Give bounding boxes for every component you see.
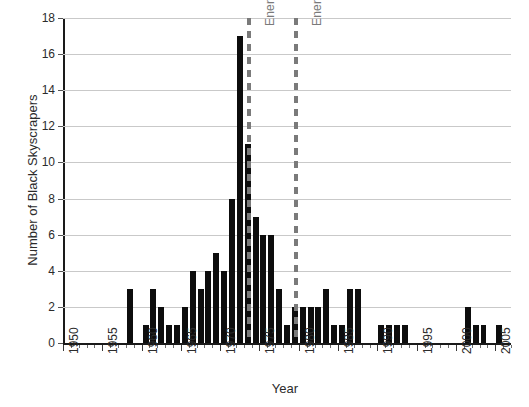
x-tick-label: 2005 [499, 327, 513, 354]
x-minor-tick [244, 345, 245, 348]
x-major-tick [456, 345, 457, 351]
x-major-tick [142, 345, 143, 351]
gridline [63, 162, 511, 163]
y-tick-label: 14 [42, 83, 55, 97]
x-tick-label: 1995 [421, 327, 435, 354]
bar [166, 325, 172, 343]
y-tick-mark [58, 343, 63, 344]
y-tick-mark [58, 199, 63, 200]
gridline [63, 126, 511, 127]
x-minor-tick [480, 345, 481, 348]
bar [284, 325, 290, 343]
bar [237, 36, 243, 343]
x-minor-tick [409, 345, 410, 348]
x-minor-tick [330, 345, 331, 348]
gridline [63, 271, 511, 272]
bar [323, 289, 329, 343]
x-minor-tick [126, 345, 127, 348]
bar [229, 199, 235, 343]
y-axis-title: Number of Black Skyscrapers [22, 30, 44, 330]
annotation-line [247, 18, 251, 343]
y-tick-label: 12 [42, 119, 55, 133]
x-minor-tick [401, 345, 402, 348]
y-tick-label: 10 [42, 155, 55, 169]
gridline [63, 54, 511, 55]
bar [127, 289, 133, 343]
gridline [63, 18, 511, 19]
bar [331, 325, 337, 343]
x-major-tick [63, 345, 64, 351]
x-minor-tick [362, 345, 363, 348]
x-axis-line [63, 343, 511, 345]
y-tick-mark [58, 18, 63, 19]
gridline [63, 235, 511, 236]
bar [213, 253, 219, 343]
x-tick-label: 1965 [185, 327, 199, 354]
y-tick-label: 0 [48, 336, 55, 350]
x-tick-label: 1950 [67, 327, 81, 354]
x-minor-tick [94, 345, 95, 348]
x-major-tick [220, 345, 221, 351]
y-tick-label: 8 [48, 192, 55, 206]
x-major-tick [338, 345, 339, 351]
gridline [63, 90, 511, 91]
x-axis-title: Year [60, 381, 510, 396]
y-tick-mark [58, 90, 63, 91]
x-minor-tick [370, 345, 371, 348]
x-tick-label: 1970 [224, 327, 238, 354]
x-minor-tick [204, 345, 205, 348]
y-tick-mark [58, 235, 63, 236]
bar [402, 325, 408, 343]
x-tick-label: 1960 [146, 327, 160, 354]
x-minor-tick [283, 345, 284, 348]
y-tick-label: 2 [48, 300, 55, 314]
y-tick-label: 18 [42, 11, 55, 25]
x-major-tick [102, 345, 103, 351]
x-minor-tick [134, 345, 135, 348]
bar-chart: Number of Black Skyscrapers 024681012141… [0, 0, 529, 407]
x-minor-tick [448, 345, 449, 348]
x-minor-tick [173, 345, 174, 348]
y-tick-label: 16 [42, 47, 55, 61]
y-tick-mark [58, 126, 63, 127]
x-minor-tick [87, 345, 88, 348]
x-major-tick [299, 345, 300, 351]
x-minor-tick [291, 345, 292, 348]
x-tick-label: 2000 [460, 327, 474, 354]
bar [276, 289, 282, 343]
x-tick-label: 1955 [106, 327, 120, 354]
y-axis-line [63, 18, 65, 343]
y-tick-mark [58, 271, 63, 272]
x-tick-label: 1975 [263, 327, 277, 354]
x-minor-tick [252, 345, 253, 348]
x-minor-tick [322, 345, 323, 348]
bar [481, 325, 487, 343]
plot-area: 024681012141618 Energy Crisis 1973Energy… [63, 18, 511, 343]
x-minor-tick [212, 345, 213, 348]
x-tick-label: 1985 [342, 327, 356, 354]
y-tick-label: 6 [48, 228, 55, 242]
gridline [63, 199, 511, 200]
annotation-label: Energy Crisis 1979 [310, 0, 324, 26]
x-major-tick [259, 345, 260, 351]
bar [205, 271, 211, 343]
x-tick-label: 1980 [303, 327, 317, 354]
annotation-label: Energy Crisis 1973 [263, 0, 277, 26]
y-tick-mark [58, 307, 63, 308]
x-minor-tick [165, 345, 166, 348]
y-tick-label: 4 [48, 264, 55, 278]
y-tick-mark [58, 54, 63, 55]
bar [253, 217, 259, 343]
x-tick-label: 1990 [381, 327, 395, 354]
annotation-line [294, 18, 298, 343]
x-minor-tick [440, 345, 441, 348]
x-minor-tick [487, 345, 488, 348]
x-major-tick [377, 345, 378, 351]
y-tick-mark [58, 162, 63, 163]
x-major-tick [181, 345, 182, 351]
bar [174, 325, 180, 343]
x-major-tick [417, 345, 418, 351]
x-major-tick [495, 345, 496, 351]
